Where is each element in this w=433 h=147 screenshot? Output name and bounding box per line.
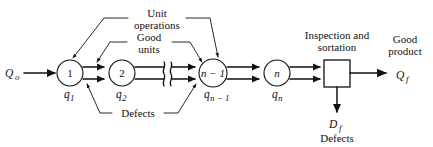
svg-text:1: 1 [70, 93, 75, 103]
svg-text:n: n [278, 93, 283, 103]
station-n-minus-1-output-label: q n − 1 [204, 88, 230, 103]
callout-unit-operations-line1: Unit [147, 7, 167, 19]
good-product-symbol: Q [396, 69, 405, 81]
callout-good-units-line2: units [138, 43, 159, 55]
leader-good-units-right [172, 42, 202, 62]
defect-output-symbol: D [328, 118, 338, 130]
callout-unit-operations: Unit operations [134, 7, 180, 31]
svg-text:2: 2 [122, 93, 127, 103]
leader-defects-left [87, 84, 112, 113]
station-n-label: n [274, 67, 280, 79]
station-n-output-label: q n [272, 88, 283, 103]
flow-1-to-2 [83, 67, 104, 79]
station-n-minus-1-label: n − 1 [201, 67, 225, 79]
flow-n-to-inspection [290, 67, 320, 79]
station-1-label: 1 [67, 67, 73, 79]
flow-break-to-n-minus-1 [172, 67, 195, 79]
inspection-caption: Inspection and sortation [305, 29, 370, 53]
defect-output-label: Defects [320, 132, 354, 144]
leader-defects-right [164, 84, 196, 113]
good-product-line1: Good [393, 33, 418, 45]
feed-subscript: o [15, 72, 20, 82]
inspection-box [324, 60, 350, 87]
leader-unit-operations-left [73, 18, 128, 58]
good-product-subscript: f [406, 74, 410, 84]
callout-unit-operations-line2: operations [134, 19, 180, 31]
diagram-canvas: Q o 1 2 n − 1 n q 1 q 2 q n − 1 q n Unit… [0, 0, 433, 147]
good-product-line2: product [388, 45, 422, 57]
leader-unit-operations-right [186, 18, 218, 57]
inspection-caption-line2: sortation [318, 41, 357, 53]
callout-defects-stream: Defects [121, 107, 155, 119]
break-squiggle-icon [163, 62, 172, 86]
station-2-label: 2 [119, 67, 125, 79]
flow-2-to-break [135, 67, 164, 79]
callout-good-units: Good units [137, 31, 162, 55]
process-flow-diagram: Q o 1 2 n − 1 n q 1 q 2 q n − 1 q n Unit… [0, 0, 433, 147]
station-2-output-label: q 2 [116, 88, 127, 103]
feed-symbol: Q [5, 67, 14, 79]
defect-output-caption: D f Defects [320, 118, 354, 144]
callout-good-units-line1: Good [137, 31, 162, 43]
svg-text:n − 1: n − 1 [210, 93, 230, 103]
inspection-caption-line1: Inspection and [305, 29, 370, 41]
leader-good-units-left [97, 42, 127, 62]
feed-label: Q o [5, 67, 20, 82]
station-1-output-label: q 1 [64, 88, 75, 103]
flow-n-minus-1-to-n [227, 67, 259, 79]
good-product-caption: Good product Q f [388, 33, 422, 84]
